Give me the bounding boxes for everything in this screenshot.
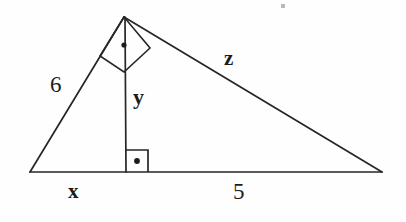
geometry-figure: 6 z y x 5 (0, 0, 406, 222)
label-altitude: y (133, 86, 144, 108)
triangle-right-leg-line (124, 17, 382, 172)
label-base-left: x (68, 181, 79, 202)
apex-right-angle-dot (121, 42, 126, 47)
scan-speck-artifact (281, 4, 285, 8)
geometry-canvas (0, 0, 406, 222)
label-hypotenuse-right: z (224, 48, 233, 69)
foot-right-angle-dot (134, 158, 140, 164)
foot-right-angle-marker (126, 150, 148, 172)
label-base-right: 5 (233, 180, 245, 203)
label-left-leg: 6 (50, 73, 62, 96)
altitude-line (125, 17, 126, 172)
